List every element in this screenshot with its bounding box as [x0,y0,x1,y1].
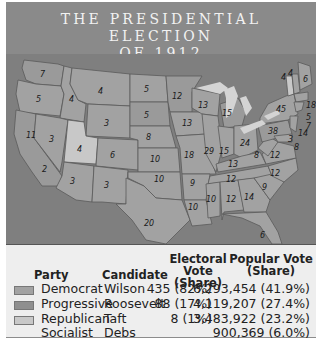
svg-text:3: 3 [104,119,109,128]
svg-text:18: 18 [184,151,194,160]
svg-text:3: 3 [70,177,75,186]
svg-text:14: 14 [244,193,254,202]
state-ct [294,102,304,112]
map-title: THE PRESIDENTIAL ELECTION OF 1912 [6,2,316,54]
svg-text:9: 9 [262,183,267,192]
svg-text:12: 12 [226,175,236,184]
svg-text:6: 6 [110,151,115,160]
svg-text:5: 5 [36,95,41,104]
svg-text:38: 38 [268,127,278,136]
svg-text:45: 45 [276,105,286,114]
svg-text:8: 8 [294,143,299,152]
svg-text:3: 3 [104,181,109,190]
state-fl [222,212,282,244]
state-sd [130,102,170,126]
svg-text:20: 20 [144,219,154,228]
svg-text:13: 13 [198,101,208,110]
svg-text:29: 29 [204,147,214,156]
title-line-1: THE PRESIDENTIAL ELECTION [6,11,316,45]
svg-text:24: 24 [240,139,250,148]
svg-text:10: 10 [150,155,160,164]
legend-row-republican: Republican Taft 8 (1%) 3,483,922 (23.2%) [6,311,316,326]
svg-text:11: 11 [26,131,36,140]
svg-text:15: 15 [222,109,232,118]
state-nm [92,166,128,204]
swatch-progressive [14,301,34,310]
swatch-democrat [14,286,34,295]
svg-text:8: 8 [254,151,259,160]
header-party: Party [34,269,69,281]
svg-text:13: 13 [182,119,192,128]
svg-text:15: 15 [219,147,229,156]
legend-row-democrat: Democrat Wilson 435 (82%) 6,293,454 (41.… [6,281,316,296]
svg-text:18: 18 [306,101,316,110]
svg-text:5: 5 [306,113,311,122]
svg-text:5: 5 [144,85,149,94]
svg-text:12: 12 [270,151,280,160]
svg-text:14: 14 [298,129,308,138]
svg-text:4: 4 [98,87,103,96]
legend-table: Party Candidate Electoral Vote (Share) P… [6,244,316,337]
state-nj [290,116,298,132]
legend-row-progressive: Progressive Roosevelt 88 (17%) 4,119,207… [6,296,316,311]
us-electoral-map: 7 5 11 4 3 4 3 4 6 3 3 2 5 5 8 10 10 20 … [6,54,316,244]
legend-row-socialist: Socialist Debs 900,369 (6.0%) [6,325,316,340]
state-co [96,138,138,170]
svg-text:12: 12 [226,195,236,204]
svg-text:12: 12 [172,92,182,101]
svg-text:10: 10 [188,203,198,212]
svg-text:2: 2 [42,165,47,174]
svg-text:13: 13 [228,160,238,169]
svg-text:12: 12 [270,169,280,178]
svg-text:6: 6 [303,75,308,84]
svg-text:10: 10 [206,195,216,204]
header-popular: Popular Vote (Share) [228,253,314,277]
svg-text:3: 3 [288,135,293,144]
svg-text:5: 5 [144,111,149,120]
svg-text:6: 6 [260,231,265,240]
map-svg: 7 5 11 4 3 4 3 4 6 3 3 2 5 5 8 10 10 20 … [6,54,316,244]
svg-text:3: 3 [49,135,54,144]
svg-text:8: 8 [146,133,151,142]
svg-text:4: 4 [69,95,74,104]
svg-text:9: 9 [190,179,195,188]
svg-text:10: 10 [154,175,164,184]
svg-text:4: 4 [288,69,293,78]
swatch-republican [14,316,34,325]
svg-text:4: 4 [77,145,82,154]
svg-text:4: 4 [281,73,286,82]
